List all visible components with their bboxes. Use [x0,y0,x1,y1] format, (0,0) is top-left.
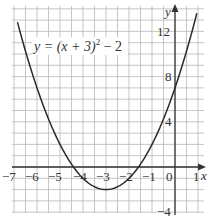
y-axis-label: y [163,4,171,19]
x-tick: 0 [166,169,173,184]
x-tick: −1 [142,169,156,184]
graph: x y 12 8 4 −4 −7 −6 −5 −4 −3 −2 −1 0 1 y… [0,0,209,217]
x-ticks: −7 −6 −5 −4 −3 −2 −1 0 1 [2,169,200,184]
x-tick: −5 [48,169,62,184]
y-tick-neg4: −4 [157,204,171,217]
y-tick-12: 12 [157,24,170,39]
x-tick: −3 [96,169,110,184]
x-tick: −7 [2,169,16,184]
y-tick-8: 8 [165,69,172,84]
x-tick: 1 [193,169,200,184]
x-tick: −6 [25,169,39,184]
x-tick: −2 [119,169,133,184]
x-axis-label: x [200,168,207,183]
y-tick-4: 4 [165,114,172,129]
equation-label: y = (x + 3)2 − 2 [32,37,122,55]
x-tick: −4 [73,169,87,184]
y-axis-arrow-icon [172,4,179,12]
